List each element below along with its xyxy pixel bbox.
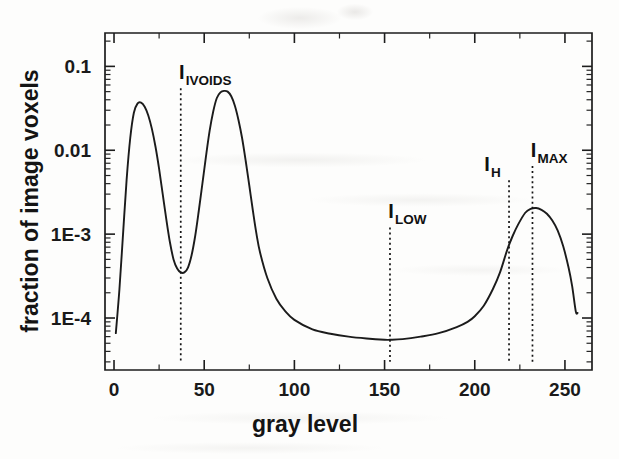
marker-subscript-ivoids: IVOIDS — [186, 73, 232, 88]
y-tick-label: 0.01 — [54, 140, 91, 161]
y-tick-label: 1E-4 — [51, 308, 92, 329]
threshold-markers: IIVOIDSILOWIHIMAX — [179, 61, 568, 362]
x-tick-label: 0 — [109, 379, 120, 400]
marker-subscript-max: MAX — [537, 151, 567, 166]
x-axis-title: gray level — [252, 411, 358, 437]
marker-symbol-h: I — [484, 153, 490, 175]
x-tick-label: 250 — [549, 379, 581, 400]
marker-symbol-low: I — [388, 200, 394, 222]
y-tick-label: 1E-3 — [51, 224, 91, 245]
x-axis-tick-labels: 050100150200250 — [109, 379, 581, 400]
marker-subscript-low: LOW — [395, 212, 427, 227]
marker-symbol-ivoids: I — [179, 61, 185, 83]
marker-symbol-max: I — [531, 139, 537, 161]
x-tick-label: 50 — [194, 379, 215, 400]
histogram-chart: 0.10.011E-31E-4 050100150200250 IIVOIDSI… — [0, 0, 619, 459]
y-axis-title: fraction of image voxels — [17, 69, 43, 332]
x-tick-label: 200 — [459, 379, 491, 400]
y-axis-ticks — [105, 41, 592, 362]
x-tick-label: 150 — [369, 379, 401, 400]
x-axis-ticks — [114, 33, 565, 370]
figure-container: 0.10.011E-31E-4 050100150200250 IIVOIDSI… — [0, 0, 619, 459]
y-tick-label: 0.1 — [65, 56, 92, 77]
x-tick-label: 100 — [279, 379, 311, 400]
marker-subscript-h: H — [491, 165, 501, 180]
plot-frame — [105, 33, 592, 370]
histogram-curve — [116, 91, 578, 340]
y-axis-tick-labels: 0.10.011E-31E-4 — [51, 56, 92, 329]
